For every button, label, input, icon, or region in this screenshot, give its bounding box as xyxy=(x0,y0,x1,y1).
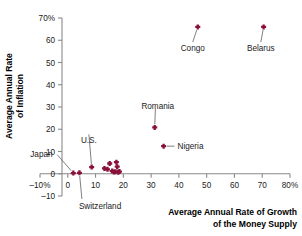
leader-line-congo xyxy=(193,30,197,42)
point-label-belarus: Belarus xyxy=(247,44,275,53)
point-label-congo: Congo xyxy=(181,44,206,53)
y-axis-title-line1: Average Annual Rate xyxy=(4,53,14,139)
y-tick-label: 40 xyxy=(46,81,56,90)
x-tick-label: 20 xyxy=(119,181,129,190)
data-point-japan xyxy=(71,171,76,176)
x-axis-title-line2: of the Money Supply xyxy=(213,219,297,229)
y-tick-label: –10 xyxy=(41,192,55,201)
x-tick-label: 80% xyxy=(282,181,298,190)
leader-line-japan xyxy=(57,155,71,171)
y-tick-label: 60 xyxy=(46,36,56,45)
point-label-switzerland: Switzerland xyxy=(79,202,122,211)
data-point-u-s xyxy=(89,165,94,170)
y-axis-title-line2: of Inflation xyxy=(15,74,25,118)
data-point-nigeria xyxy=(161,144,166,149)
x-tick-label: 70 xyxy=(258,181,268,190)
x-tick-label: –10% xyxy=(30,181,51,190)
data-point-romania xyxy=(152,125,157,130)
point-label-romania: Romania xyxy=(141,102,174,111)
x-tick-label: 60 xyxy=(230,181,240,190)
y-tick-label: 70% xyxy=(39,14,55,23)
leader-line-romania xyxy=(155,109,156,124)
point-label-japan: Japan xyxy=(30,150,53,159)
data-point xyxy=(107,161,112,166)
y-tick-label: 50 xyxy=(46,59,56,68)
y-tick-label: 30 xyxy=(46,103,56,112)
point-label-nigeria: Nigeria xyxy=(178,142,204,151)
data-point xyxy=(114,160,119,165)
x-tick-label: 0 xyxy=(65,181,70,190)
data-point-congo xyxy=(195,24,200,29)
y-tick-label: 0 xyxy=(50,170,55,179)
point-label-u-s: U.S. xyxy=(81,136,97,145)
x-axis-title: Average Annual Rate of Growth of the Mon… xyxy=(168,207,297,229)
data-point-belarus xyxy=(261,24,266,29)
y-axis-title: Average Annual Rate of Inflation xyxy=(4,53,25,139)
leader-line-belarus xyxy=(261,30,263,42)
x-tick-label: 30 xyxy=(147,181,157,190)
scatter-chart: –10%01020304050607080%–10010203040506070… xyxy=(0,0,302,236)
x-tick-label: 10 xyxy=(91,181,101,190)
x-tick-label: 50 xyxy=(202,181,212,190)
y-tick-label: 20 xyxy=(46,125,56,134)
leader-line-switzerland xyxy=(80,176,82,199)
data-point-switzerland xyxy=(77,170,82,175)
data-point xyxy=(115,164,120,169)
data-points xyxy=(71,24,266,175)
x-axis-title-line1: Average Annual Rate of Growth xyxy=(168,207,297,217)
x-tick-label: 40 xyxy=(174,181,184,190)
